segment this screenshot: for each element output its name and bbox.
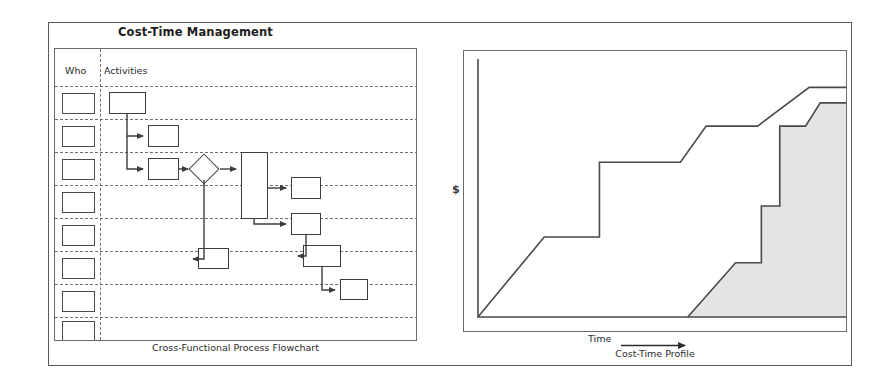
- chart-x-axis-label: Time: [588, 333, 611, 344]
- flowchart-caption: Cross-Functional Process Flowchart: [54, 342, 417, 353]
- chart-plot-area: [464, 51, 847, 332]
- diagram-canvas: Cost-Time Management Who Activities: [0, 0, 896, 389]
- chart-caption: Cost-Time Profile: [463, 348, 847, 359]
- chart-y-axis-label: $: [452, 183, 460, 196]
- flowchart-panel: Who Activities: [54, 48, 417, 341]
- flow-connectors: [55, 49, 417, 341]
- chart-shaded-area: [688, 103, 846, 317]
- cost-time-chart: [463, 50, 847, 332]
- page-title: Cost-Time Management: [118, 25, 273, 39]
